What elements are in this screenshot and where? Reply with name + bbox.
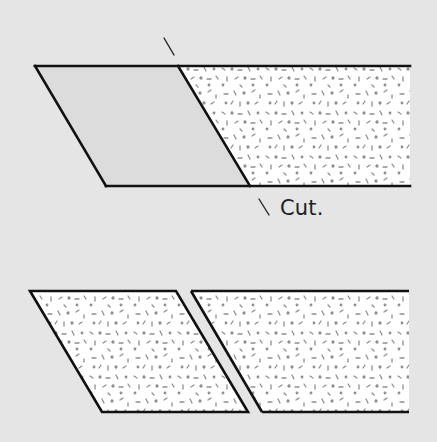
quilting-cut-diagram (0, 0, 437, 442)
cut-tick-bottom (259, 199, 269, 215)
cut-label: Cut. (280, 196, 324, 220)
cut-tick-top (164, 38, 174, 55)
